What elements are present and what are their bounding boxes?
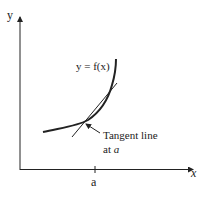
- x-axis-label: x: [190, 166, 197, 180]
- tangent-label-var-a: a: [114, 143, 120, 155]
- curve-label: y = f(x): [76, 60, 110, 73]
- tangent-label-line1: Tangent line: [103, 129, 158, 141]
- pointer-arrow: [86, 124, 100, 133]
- tangent-line-diagram: y x a y = f(x) Tangent line at a: [0, 0, 209, 198]
- y-axis-label: y: [7, 8, 13, 22]
- tangent-label-line2: at a: [103, 143, 120, 155]
- tangent-label-at: at: [103, 143, 114, 155]
- x-tick-label-a: a: [91, 175, 97, 189]
